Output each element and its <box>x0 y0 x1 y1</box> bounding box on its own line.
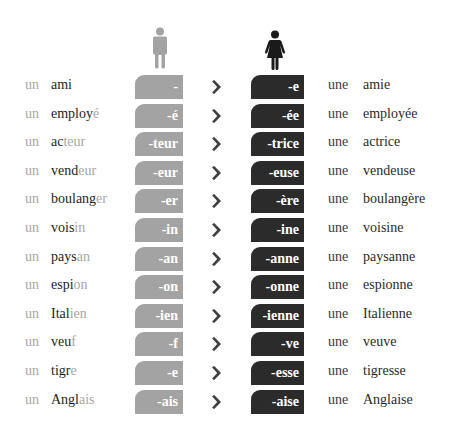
masculine-suffix-box: -teur <box>135 132 183 156</box>
feminine-suffix-box: -esse <box>251 361 304 385</box>
feminine-suffix-box: -anne <box>251 247 304 271</box>
table-row: un boulanger -er -ère une boulangère <box>0 189 451 213</box>
feminine-word: veuve <box>363 334 396 350</box>
feminine-suffix-box: -aise <box>251 390 304 414</box>
masculine-suffix-box: -on <box>135 275 183 299</box>
masculine-suffix-box: -an <box>135 247 183 271</box>
masculine-ending: er <box>96 191 107 206</box>
feminine-article: une <box>328 163 348 179</box>
chevron-right-icon <box>208 394 224 410</box>
chevron-right-icon <box>208 365 224 381</box>
feminine-word: tigresse <box>363 363 406 379</box>
masculine-ending: in <box>74 220 85 235</box>
chevron-right-icon <box>208 308 224 324</box>
masculine-word: boulanger <box>51 191 107 207</box>
chevron-right-icon <box>208 222 224 238</box>
chevron-right-icon <box>208 251 224 267</box>
masculine-article: un <box>25 249 39 265</box>
chevron-right-icon <box>208 165 224 181</box>
feminine-word: paysanne <box>363 249 415 265</box>
feminine-word: vendeuse <box>363 163 415 179</box>
chevron-right-icon <box>208 336 224 352</box>
masculine-article: un <box>25 277 39 293</box>
feminine-article: une <box>328 277 348 293</box>
feminine-article: une <box>328 134 348 150</box>
masculine-word: voisin <box>51 220 85 236</box>
table-row: un veuf -f -ve une veuve <box>0 332 451 356</box>
feminine-article: une <box>328 306 348 322</box>
masculine-word: acteur <box>51 134 85 150</box>
masculine-article: un <box>25 106 39 122</box>
masculine-stem: espi <box>51 277 74 292</box>
feminine-word: Italienne <box>363 306 412 322</box>
masculine-word: espion <box>51 277 88 293</box>
masculine-article: un <box>25 334 39 350</box>
masculine-suffix-box: -é <box>135 104 183 128</box>
table-row: un employé -é -ée une employée <box>0 104 451 128</box>
chevron-right-icon <box>208 136 224 152</box>
feminine-suffix-box: -ée <box>251 104 304 128</box>
masculine-stem: Ital <box>51 306 70 321</box>
feminine-suffix-box: -onne <box>251 275 304 299</box>
masculine-ending: ais <box>79 392 95 407</box>
table-row: un tigre -e -esse une tigresse <box>0 361 451 385</box>
woman-icon <box>264 30 286 70</box>
masculine-word: vendeur <box>51 163 96 179</box>
chevron-right-icon <box>208 79 224 95</box>
masculine-suffix-box: -e <box>135 361 183 385</box>
masculine-ending: e <box>70 363 76 378</box>
masculine-stem: pays <box>51 249 77 264</box>
masculine-word: tigre <box>51 363 77 379</box>
masculine-stem: veu <box>51 334 71 349</box>
feminine-article: une <box>328 249 348 265</box>
man-icon <box>150 27 170 69</box>
feminine-suffix-box: -euse <box>251 161 304 185</box>
feminine-word: employée <box>363 106 417 122</box>
chevron-right-icon <box>208 193 224 209</box>
masculine-ending: an <box>77 249 90 264</box>
table-row: un ami - -e une amie <box>0 75 451 99</box>
chevron-right-icon <box>208 279 224 295</box>
masculine-stem: vend <box>51 163 78 178</box>
masculine-suffix-box: -er <box>135 189 183 213</box>
feminine-article: une <box>328 220 348 236</box>
masculine-article: un <box>25 392 39 408</box>
masculine-suffix-box: -ien <box>135 304 183 328</box>
feminine-suffix-box: -ienne <box>251 304 304 328</box>
feminine-suffix-box: -ère <box>251 189 304 213</box>
masculine-ending: ien <box>70 306 87 321</box>
feminine-suffix-box: -trice <box>251 132 304 156</box>
feminine-suffix-box: -ine <box>251 218 304 242</box>
feminine-article: une <box>328 77 348 93</box>
masculine-ending: eur <box>78 163 96 178</box>
table-row: un paysan -an -anne une paysanne <box>0 247 451 271</box>
feminine-word: boulangère <box>363 191 425 207</box>
table-row: un espion -on -onne une espionne <box>0 275 451 299</box>
masculine-article: un <box>25 163 39 179</box>
masculine-suffix-box: -ais <box>135 390 183 414</box>
masculine-stem: tigr <box>51 363 70 378</box>
masculine-ending: on <box>74 277 88 292</box>
masculine-article: un <box>25 134 39 150</box>
masculine-suffix-box: -eur <box>135 161 183 185</box>
masculine-article: un <box>25 220 39 236</box>
feminine-article: une <box>328 191 348 207</box>
masculine-article: un <box>25 363 39 379</box>
masculine-ending: f <box>71 334 76 349</box>
masculine-word: Anglais <box>51 392 95 408</box>
table-row: un vendeur -eur -euse une vendeuse <box>0 161 451 185</box>
masculine-word: Italien <box>51 306 87 322</box>
table-row: un Italien -ien -ienne une Italienne <box>0 304 451 328</box>
table-row: un voisin -in -ine une voisine <box>0 218 451 242</box>
masculine-ending: teur <box>63 134 85 149</box>
masculine-stem: ami <box>51 77 72 92</box>
feminine-word: voisine <box>363 220 403 236</box>
masculine-suffix-box: -f <box>135 332 183 356</box>
feminine-article: une <box>328 334 348 350</box>
feminine-word: Anglaise <box>363 392 413 408</box>
masculine-word: employé <box>51 106 99 122</box>
feminine-article: une <box>328 392 348 408</box>
masculine-word: ami <box>51 77 72 93</box>
chevron-right-icon <box>208 108 224 124</box>
masculine-stem: boulang <box>51 191 96 206</box>
